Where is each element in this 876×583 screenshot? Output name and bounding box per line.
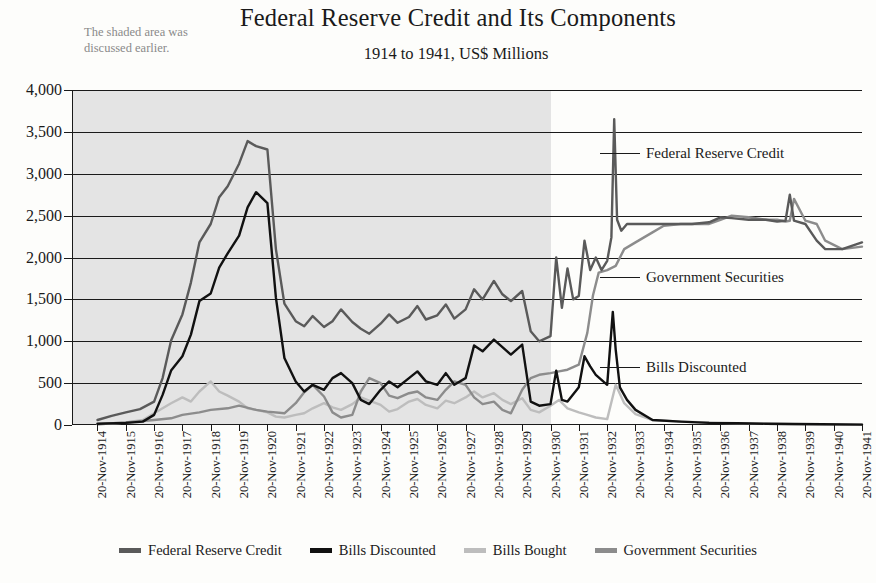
x-axis-tick-label: 20-Nov-1931: [576, 431, 591, 498]
x-axis-tick-label: 20-Nov-1918: [208, 431, 223, 498]
chart-subtitle: 1914 to 1941, US$ Millions: [0, 44, 876, 64]
callout-leader-line-2: [600, 277, 640, 278]
y-axis-tick-label: 4,000: [26, 81, 62, 99]
x-axis-tick-label: 20-Nov-1934: [661, 431, 676, 498]
y-axis-tick-label: 3,000: [26, 165, 62, 183]
callout-leader-line-1: [600, 153, 640, 154]
legend-swatch: [310, 548, 332, 553]
y-axis-tick-label: 2,000: [26, 249, 62, 267]
callout-government-securities: Government Securities: [646, 269, 784, 286]
y-axis-tick-label: 3,500: [26, 123, 62, 141]
x-axis-tick-label: 20-Nov-1932: [605, 431, 620, 498]
x-axis-tick-label: 20-Nov-1933: [633, 431, 648, 498]
x-axis-tick-label: 20-Nov-1916: [152, 431, 167, 498]
chart-page: The shaded area was discussed earlier. F…: [0, 0, 876, 583]
y-axis-tick-mark: [64, 132, 72, 133]
x-axis-tick-label: 20-Nov-1929: [520, 431, 535, 498]
y-axis-tick-mark: [64, 425, 72, 426]
x-axis-tick-label: 20-Nov-1915: [123, 431, 138, 498]
y-axis-tick-label: 0: [54, 416, 62, 434]
series-line: [98, 192, 863, 424]
y-axis-tick-mark: [64, 258, 72, 259]
y-axis-tick-label: 2,500: [26, 207, 62, 225]
x-axis-tick-label: 20-Nov-1928: [491, 431, 506, 498]
chart-subtitle-text: 1914 to 1941, US$ Millions: [328, 44, 549, 64]
legend-label: Bills Discounted: [339, 542, 436, 558]
chart-title-text: Federal Reserve Credit and Its Component…: [200, 4, 676, 32]
y-axis-tick-mark: [64, 174, 72, 175]
x-axis-tick-label: 20-Nov-1930: [548, 431, 563, 498]
y-axis-tick-label: 500: [38, 374, 62, 392]
x-axis-tick-label: 20-Nov-1920: [265, 431, 280, 498]
x-axis-tick-label: 20-Nov-1935: [690, 431, 705, 498]
x-axis-tick-label: 20-Nov-1936: [718, 431, 733, 498]
callout-bills-discounted: Bills Discounted: [646, 359, 746, 376]
callout-leader-line-3: [600, 367, 640, 368]
legend-item: Government Securities: [595, 541, 757, 559]
legend-swatch: [464, 548, 486, 553]
series-line: [98, 199, 863, 424]
legend-item: Bills Bought: [464, 541, 567, 559]
legend-swatch: [119, 548, 141, 553]
chart-title: Federal Reserve Credit and Its Component…: [0, 4, 876, 32]
y-axis-tick-mark: [64, 383, 72, 384]
x-axis-tick-label: 20-Nov-1922: [322, 431, 337, 498]
y-axis-tick-mark: [64, 299, 72, 300]
legend-label: Government Securities: [624, 542, 757, 558]
legend-item: Federal Reserve Credit: [119, 541, 282, 559]
y-axis-labels: 05001,0001,5002,0002,5003,0003,5004,000: [0, 90, 72, 425]
y-axis-tick-label: 1,000: [26, 332, 62, 350]
x-axis-tick-label: 20-Nov-1937: [746, 431, 761, 498]
x-axis-tick-label: 20-Nov-1941: [860, 431, 875, 498]
x-axis-tick-label: 20-Nov-1938: [775, 431, 790, 498]
x-axis-tick-label: 20-Nov-1917: [180, 431, 195, 498]
x-axis-tick-label: 20-Nov-1921: [293, 431, 308, 498]
x-axis-tick-label: 20-Nov-1925: [406, 431, 421, 498]
chart-legend: Federal Reserve CreditBills DiscountedBi…: [0, 540, 876, 559]
legend-swatch: [595, 548, 617, 553]
x-axis-tick-label: 20-Nov-1919: [237, 431, 252, 498]
x-axis-tick-label: 20-Nov-1923: [350, 431, 365, 498]
x-axis-tick-label: 20-Nov-1939: [803, 431, 818, 498]
x-axis-tick-label: 20-Nov-1926: [435, 431, 450, 498]
legend-label: Federal Reserve Credit: [148, 542, 282, 558]
x-axis-tick-label: 20-Nov-1914: [95, 431, 110, 498]
legend-label: Bills Bought: [493, 542, 567, 558]
y-axis-tick-label: 1,500: [26, 290, 62, 308]
x-axis-tick-label: 20-Nov-1927: [463, 431, 478, 498]
x-axis-tick-label: 20-Nov-1924: [378, 431, 393, 498]
callout-federal-reserve-credit: Federal Reserve Credit: [646, 145, 784, 162]
x-axis-tick-label: 20-Nov-1940: [831, 431, 846, 498]
y-axis-tick-mark: [64, 341, 72, 342]
x-axis-labels: 20-Nov-191420-Nov-191520-Nov-191620-Nov-…: [72, 431, 862, 531]
legend-item: Bills Discounted: [310, 541, 436, 559]
y-axis-tick-mark: [64, 90, 72, 91]
y-axis-tick-mark: [64, 216, 72, 217]
